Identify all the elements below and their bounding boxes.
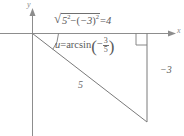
hypotenuse-length-label: 5: [78, 80, 83, 90]
radicand-term-value: −3: [80, 15, 92, 26]
radical-group: √ 52−(−3)2: [54, 13, 100, 26]
reference-triangle-figure: y x √ 52−(−3)2 =4 u=arcsin(−35) 5 −3: [0, 0, 184, 136]
angle-expression: u=arcsin(−35): [55, 37, 115, 55]
adjacent-side-expression: √ 52−(−3)2 =4: [54, 13, 111, 26]
x-axis-arrowhead: [168, 31, 176, 37]
radicand-group: 52−(−3)2: [61, 13, 100, 26]
arcsin-function-name: arcsin: [66, 39, 91, 50]
x-axis-label: x: [177, 27, 181, 35]
radical-sign-icon: √: [54, 12, 61, 25]
y-axis-arrowhead: [30, 8, 36, 16]
radicand-term-exponent: 2: [96, 13, 99, 20]
adjacent-result-value: 4: [106, 15, 111, 26]
y-axis-label: y: [27, 1, 31, 9]
opposite-side-label: −3: [160, 65, 172, 75]
angle-close-paren: ): [109, 37, 115, 56]
right-angle-marker: [136, 34, 147, 46]
